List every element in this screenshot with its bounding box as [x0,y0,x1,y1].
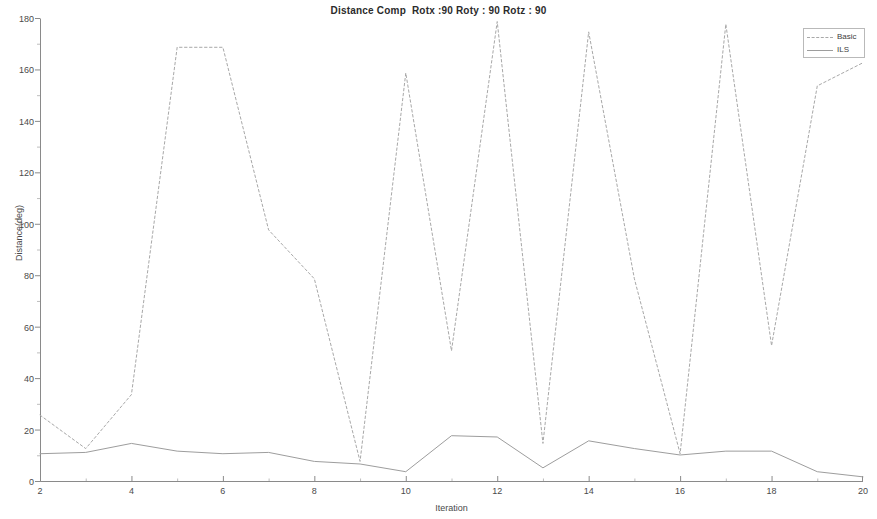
x-axis-tick-labels: 2468101214161820 [40,486,863,500]
y-tick-label: 40 [24,374,34,384]
legend-label-basic: Basic [837,31,857,43]
legend-swatch-basic-icon [807,37,833,38]
x-tick-label: 8 [312,486,317,496]
chart-title: Distance Comp Rotx :90 Roty : 90 Rotz : … [0,5,877,16]
legend-entry-basic: Basic [807,31,863,43]
legend-entry-ils: ILS [807,44,863,56]
axis-spines [41,19,864,482]
x-tick-label: 20 [858,486,868,496]
x-tick-label: 12 [492,486,502,496]
chart-figure: Distance Comp Rotx :90 Roty : 90 Rotz : … [0,0,877,519]
y-tick-label: 140 [19,117,34,127]
chart-legend: Basic ILS [803,28,865,58]
legend-swatch-ils-icon [807,50,833,51]
y-tick-label: 160 [19,65,34,75]
x-tick-label: 4 [129,486,134,496]
series-line-basic [40,22,863,462]
plot-canvas [40,19,863,482]
x-tick-label: 10 [401,486,411,496]
x-tick-label: 6 [220,486,225,496]
plot-area [40,19,863,482]
x-tick-label: 2 [37,486,42,496]
y-tick-label: 80 [24,271,34,281]
series-line-ils [40,436,863,477]
y-tick-label: 20 [24,426,34,436]
y-tick-label: 100 [19,220,34,230]
x-tick-label: 18 [767,486,777,496]
y-tick-label: 120 [19,168,34,178]
x-tick-label: 14 [584,486,594,496]
x-axis-label: Iteration [40,503,863,513]
x-tick-label: 16 [675,486,685,496]
legend-label-ils: ILS [837,44,849,56]
y-tick-label: 60 [24,323,34,333]
y-axis-tick-labels: 020406080100120140160180 [0,19,34,482]
y-tick-label: 0 [29,477,34,487]
y-tick-label: 180 [19,14,34,24]
